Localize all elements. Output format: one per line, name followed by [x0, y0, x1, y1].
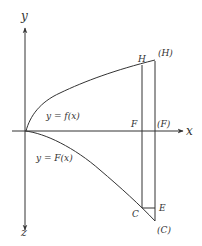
x-axis-label: x [186, 124, 193, 138]
curve-F [25, 131, 155, 221]
diagram-canvas: y x z y = f(x) y = F(x) H (H) F (F) C E … [0, 0, 202, 246]
point-H-label: H [137, 54, 146, 64]
point-H-image-label: (H) [158, 48, 173, 58]
z-axis-label: z [20, 226, 27, 239]
point-C-label: C [132, 209, 139, 219]
curve-F-label: y = F(x) [35, 153, 73, 163]
y-axis-label: y [20, 9, 28, 23]
point-F-label: F [130, 119, 138, 129]
point-E-label: E [158, 203, 166, 213]
point-C-image-label: (C) [157, 225, 171, 235]
curve-f-label: y = f(x) [45, 111, 80, 121]
point-F-image-label: (F) [157, 119, 171, 129]
